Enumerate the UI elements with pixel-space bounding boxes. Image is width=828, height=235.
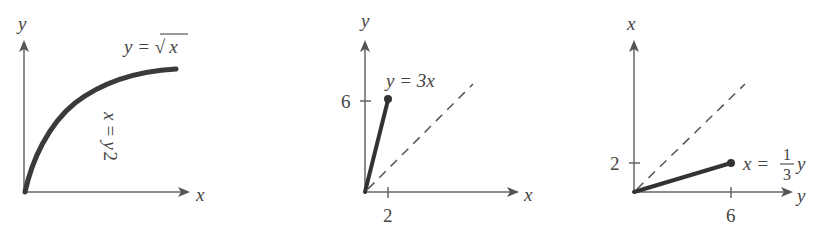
line-y-3x (365, 100, 388, 192)
figure: y x y = √x x=y2 y x 6 2 y = 3x (0, 0, 828, 235)
line-label: y = 3x (384, 70, 435, 91)
line-label-lhs: x = (742, 153, 769, 174)
y-tick-label: 6 (341, 91, 351, 112)
x-axis-label: y (795, 185, 806, 206)
endpoint-dot (727, 159, 735, 167)
y-axis-label: y (359, 10, 370, 31)
y-axis-label: y (16, 13, 27, 34)
endpoint-dot (384, 95, 392, 103)
fraction-numerator: 1 (783, 146, 791, 163)
svg-text:x=y2: x=y2 (100, 111, 121, 161)
x-axis-label: x (195, 184, 205, 205)
y-tick-label: 2 (610, 153, 620, 174)
fraction-denominator: 3 (783, 166, 791, 183)
x-tick-label: 2 (383, 205, 393, 226)
diagonal-dashed (368, 84, 473, 189)
curve-label: y = √x (122, 36, 178, 57)
y-axis-label: x (626, 13, 636, 34)
x-axis-label: x (523, 184, 533, 205)
x-tick-label: 6 (726, 205, 736, 226)
line-label-var: y (795, 153, 806, 174)
panel-y-equals-3x: y x 6 2 y = 3x (341, 10, 533, 226)
panel-x-equals-third-y: x y 2 6 x = 1 3 y (610, 13, 806, 226)
panel-sqrt: y x y = √x x=y2 (16, 13, 205, 205)
inverse-label: x=y2 (100, 111, 121, 161)
